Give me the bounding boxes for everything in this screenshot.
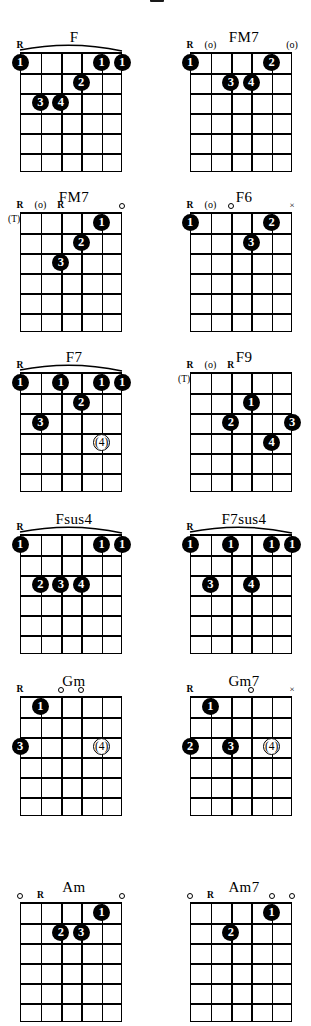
fret-line: [191, 1003, 291, 1004]
fret-line: [21, 923, 121, 924]
fret-line: [21, 757, 121, 758]
fretboard-grid: [190, 52, 292, 172]
root-string-marker: R: [10, 41, 30, 50]
fretboard-grid: [20, 212, 122, 332]
muted-string-marker: ×: [282, 201, 302, 210]
finger-dot: 3: [222, 74, 239, 91]
finger-dot: 1: [222, 536, 239, 553]
finger-dot: 3: [222, 738, 239, 755]
fret-line: [191, 453, 291, 454]
fretboard-grid: [190, 696, 292, 816]
fretboard-grid: [20, 696, 122, 816]
chord-diagram-am7-5: Am7R12: [178, 880, 310, 1026]
chord-diagram-gm7-4: Gm7R×123(4): [178, 674, 310, 834]
fret-line: [191, 233, 291, 234]
finger-dot: 2: [32, 576, 49, 593]
finger-dot: 1: [284, 536, 301, 553]
finger-dot: 3: [52, 576, 69, 593]
finger-dot: 3: [243, 234, 260, 251]
finger-dot: 1: [93, 214, 110, 231]
finger-dot: 1: [32, 698, 49, 715]
finger-dot: 1: [182, 536, 199, 553]
finger-dot: 3: [284, 414, 301, 431]
open-string-marker: [248, 687, 254, 693]
fret-line: [191, 963, 291, 964]
finger-dot: 1: [93, 536, 110, 553]
finger-dot: 2: [222, 924, 239, 941]
fret-line: [21, 1003, 121, 1004]
fret-line: [191, 253, 291, 254]
fret-line: [191, 797, 291, 798]
fret-line: [21, 777, 121, 778]
fret-line: [21, 635, 121, 636]
fret-line: [191, 555, 291, 556]
root-string-marker: R: [10, 361, 30, 370]
finger-dot: 1: [93, 904, 110, 921]
fret-line: [21, 717, 121, 718]
fret-line: [21, 293, 121, 294]
root-string-marker: R: [30, 891, 50, 900]
finger-dot: 1: [93, 54, 110, 71]
chord-diagram-f-0: FR111234: [8, 30, 140, 190]
root-string-marker: R: [10, 201, 30, 210]
optional-finger-dot: (4): [263, 738, 280, 755]
finger-dot: 1: [12, 536, 29, 553]
open-string-marker: [269, 893, 275, 899]
fret-line: [191, 635, 291, 636]
finger-dot: 3: [52, 254, 69, 271]
fret-line: [191, 313, 291, 314]
fret-line: [21, 393, 121, 394]
thumb-marker: (T): [8, 214, 20, 224]
fret-line: [21, 273, 121, 274]
fret-line: [191, 777, 291, 778]
finger-dot: 2: [73, 394, 90, 411]
fretboard-grid: [20, 372, 122, 492]
fret-line: [191, 133, 291, 134]
finger-dot: 1: [114, 536, 131, 553]
optional-open-string-marker: (o): [280, 40, 304, 50]
open-string-marker: [289, 893, 295, 899]
root-string-marker: R: [51, 201, 71, 210]
finger-dot: 3: [32, 414, 49, 431]
finger-dot: 3: [12, 738, 29, 755]
fret-line: [191, 615, 291, 616]
fretboard-grid: [20, 902, 122, 1022]
fretboard-grid: [190, 372, 292, 492]
open-string-marker: [78, 687, 84, 693]
fret-line: [191, 393, 291, 394]
finger-dot: 4: [52, 94, 69, 111]
finger-dot: 1: [12, 374, 29, 391]
fret-line: [191, 473, 291, 474]
root-string-marker: R: [180, 41, 200, 50]
finger-dot: 1: [52, 374, 69, 391]
muted-string-marker: ×: [282, 685, 302, 694]
fretboard-grid: [190, 534, 292, 654]
finger-dot: 3: [73, 924, 90, 941]
fret-line: [21, 555, 121, 556]
fret-line: [21, 615, 121, 616]
fret-line: [191, 757, 291, 758]
fret-line: [21, 453, 121, 454]
fret-line: [191, 153, 291, 154]
fret-line: [191, 943, 291, 944]
finger-dot: 2: [222, 414, 239, 431]
open-string-marker: [228, 203, 234, 209]
optional-open-string-marker: (o): [198, 360, 222, 370]
finger-dot: 2: [263, 54, 280, 71]
chord-diagram-f7-2: F7R111123(4): [8, 350, 140, 510]
open-string-marker: [17, 893, 23, 899]
chord-diagram-f7sus4-3: F7sus4R111134: [178, 512, 310, 672]
chord-diagram-am-5: AmR123: [8, 880, 140, 1026]
fret-line: [21, 233, 121, 234]
finger-dot: 1: [182, 214, 199, 231]
chord-diagram-gm-4: GmR13(4): [8, 674, 140, 834]
fret-line: [191, 413, 291, 414]
open-string-marker: [119, 203, 125, 209]
open-string-marker: [58, 687, 64, 693]
finger-dot: 1: [114, 54, 131, 71]
fretboard-grid: [20, 534, 122, 654]
fret-line: [191, 93, 291, 94]
optional-open-string-marker: (o): [198, 40, 222, 50]
finger-dot: 2: [73, 74, 90, 91]
